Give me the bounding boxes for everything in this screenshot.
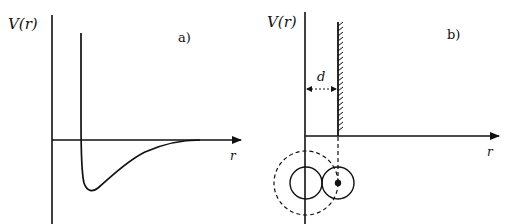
- panel-b-particle-center-dot: [335, 180, 341, 186]
- panel-b-y-label: V(r): [267, 13, 297, 31]
- figure: V(r) a) r: [0, 0, 520, 224]
- panel-a-tag: a): [178, 30, 191, 45]
- panel-a-potential-curve: [81, 33, 200, 191]
- panel-a-x-label: r: [230, 149, 237, 163]
- panel-b-x-label: r: [487, 145, 494, 159]
- panel-b: d V(r) b) r: [267, 12, 499, 224]
- panel-b-particle-left: [290, 167, 322, 199]
- panel-b-tag: b): [447, 27, 460, 42]
- panel-b-distance-label: d: [317, 69, 325, 84]
- panel-a-y-label: V(r): [8, 15, 38, 33]
- panel-a: V(r) a) r: [8, 15, 241, 224]
- panel-b-exclusion-circle: [274, 151, 338, 215]
